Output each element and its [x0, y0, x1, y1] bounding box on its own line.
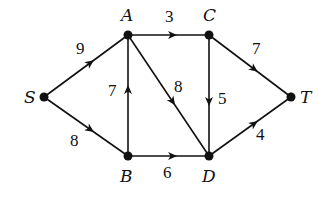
edge-weight-label: 7: [252, 39, 261, 58]
graph-diagram: 987385764SACTBD: [0, 0, 336, 200]
edge-weight-label: 4: [256, 125, 265, 144]
node-t: [287, 93, 296, 102]
arrowhead-icon: [84, 60, 94, 69]
edge-b-d: [128, 152, 209, 160]
edge-b-a: [124, 35, 132, 156]
edge-weight-label: 7: [108, 81, 117, 100]
arrowhead-icon: [84, 124, 94, 132]
edge-weight-label: 9: [76, 39, 85, 58]
node-label-s: S: [24, 87, 36, 107]
node-a: [124, 31, 133, 40]
edge-weight-label: 6: [163, 163, 172, 182]
edge-s-b: [44, 97, 128, 156]
edge-weight-label: 8: [70, 131, 79, 150]
edge-line: [209, 35, 291, 97]
node-label-a: A: [119, 5, 133, 25]
edge-weight-label: 8: [174, 77, 183, 96]
node-c: [205, 31, 214, 40]
arrowhead-icon: [248, 63, 258, 72]
node-label-t: T: [300, 87, 313, 107]
edge-c-t: [209, 35, 291, 97]
edge-a-d: [128, 35, 209, 156]
edge-line: [44, 97, 128, 156]
edge-weight-label: 5: [218, 89, 227, 108]
node-d: [205, 152, 214, 161]
node-label-c: C: [203, 5, 216, 25]
edge-a-c: [128, 31, 209, 39]
edge-line: [128, 35, 209, 156]
node-label-d: D: [201, 166, 216, 186]
node-s: [40, 93, 49, 102]
node-label-b: B: [119, 166, 133, 186]
node-b: [124, 152, 133, 161]
edge-c-d: [205, 35, 213, 156]
arrowhead-icon: [167, 96, 175, 106]
edge-weight-label: 3: [165, 7, 174, 26]
